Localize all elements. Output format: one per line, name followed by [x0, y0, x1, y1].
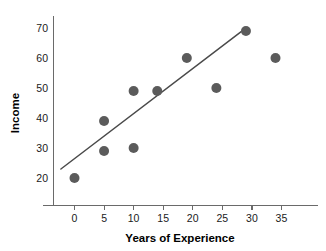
data-point: [99, 116, 109, 126]
plot-canvas: 0 5 10 15 20 25 30 35 70 60 50 40 30 20 …: [0, 0, 326, 251]
data-point: [211, 83, 221, 93]
data-point: [152, 86, 162, 96]
scatter-points-group: [70, 26, 281, 183]
data-point: [241, 26, 251, 36]
y-tick-label-40: 40: [36, 112, 48, 124]
data-point: [270, 53, 280, 63]
x-tick-label-35: 35: [276, 212, 288, 224]
x-tick-label-25: 25: [216, 212, 228, 224]
trend-line: [61, 32, 241, 169]
y-tick-label-60: 60: [36, 52, 48, 64]
y-tick-labels: 70 60 50 40 30 20: [36, 22, 48, 184]
y-tick-label-20: 20: [36, 172, 48, 184]
x-tick-label-0: 0: [72, 212, 78, 224]
x-tick-label-5: 5: [101, 212, 107, 224]
x-axis-title: Years of Experience: [125, 232, 234, 244]
x-tick-label-15: 15: [157, 212, 169, 224]
data-point: [70, 173, 80, 183]
data-point: [182, 53, 192, 63]
scatter-plot-figure: 0 5 10 15 20 25 30 35 70 60 50 40 30 20 …: [0, 0, 326, 251]
data-point: [99, 146, 109, 156]
data-point: [129, 143, 139, 153]
x-tick-label-20: 20: [187, 212, 199, 224]
y-tick-label-50: 50: [36, 82, 48, 94]
y-tick-label-70: 70: [36, 22, 48, 34]
data-point: [129, 86, 139, 96]
x-tick-labels: 0 5 10 15 20 25 30 35: [72, 212, 288, 224]
x-tick-label-10: 10: [128, 212, 140, 224]
x-tick-label-30: 30: [246, 212, 258, 224]
y-tick-label-30: 30: [36, 142, 48, 154]
y-axis-title: Income: [9, 93, 21, 133]
